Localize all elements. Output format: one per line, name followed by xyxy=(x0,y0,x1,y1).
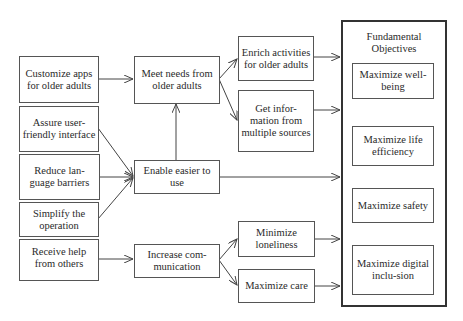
node-label: Customize apps for older adults xyxy=(22,68,96,92)
node-minimize-loneliness: Minimize loneliness xyxy=(238,221,315,257)
node-label: Get infor-mation from multiple sources xyxy=(241,103,311,139)
node-maximize-safety: Maximize safety xyxy=(352,188,434,223)
node-maximize-care: Maximize care xyxy=(238,269,315,303)
node-label: Enable easier to use xyxy=(137,165,217,189)
node-reduce-language-barriers: Reduce lan-guage barriers xyxy=(19,154,100,200)
node-assure-interface: Assure user-friendly interface xyxy=(19,106,99,152)
node-label: Receive help from others xyxy=(22,246,96,270)
node-label: Enrich activities for older adults xyxy=(241,47,311,71)
node-label: Increase com-munication xyxy=(137,249,217,273)
node-label: Reduce lan-guage barriers xyxy=(22,165,97,189)
node-label: Maximize safety xyxy=(358,200,428,212)
node-get-information: Get infor-mation from multiple sources xyxy=(238,90,314,152)
node-meet-needs: Meet needs from older adults xyxy=(134,56,220,104)
node-enable-easier: Enable easier to use xyxy=(134,160,220,194)
node-maximize-digital-inclusion: Maximize digital inclu-sion xyxy=(352,245,434,295)
node-receive-help: Receive help from others xyxy=(19,239,99,281)
node-increase-communication: Increase com-munication xyxy=(134,244,220,278)
node-customize-apps: Customize apps for older adults xyxy=(19,56,99,103)
node-label: Maximize well-being xyxy=(355,69,431,93)
fundamental-objectives-title: Fundamental Objectives xyxy=(343,31,445,55)
node-label: Assure user-friendly interface xyxy=(22,117,96,141)
node-simplify-operation: Simplify the operation xyxy=(19,202,99,237)
node-label: Maximize life efficiency xyxy=(355,134,431,158)
node-label: Minimize loneliness xyxy=(241,227,312,251)
node-maximize-life-efficiency: Maximize life efficiency xyxy=(352,126,434,166)
node-maximize-well-being: Maximize well-being xyxy=(352,63,434,99)
node-label: Simplify the operation xyxy=(22,208,96,232)
node-label: Maximize digital inclu-sion xyxy=(355,258,431,282)
node-enrich-activities: Enrich activities for older adults xyxy=(238,36,314,81)
node-label: Maximize care xyxy=(245,280,308,292)
node-label: Meet needs from older adults xyxy=(137,68,217,92)
